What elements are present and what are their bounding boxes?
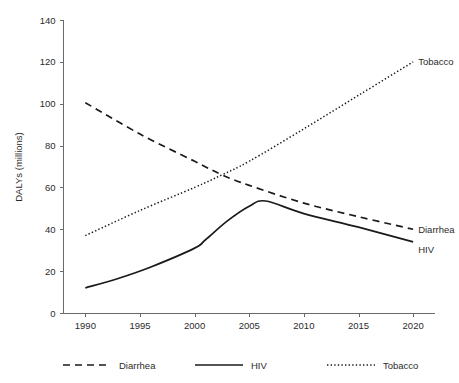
- series-line-hiv: [85, 201, 413, 288]
- series-line-tobacco: [85, 62, 413, 236]
- line-chart: 020406080100120140 199019952000200520102…: [0, 0, 459, 383]
- x-tick-label: 2000: [184, 320, 205, 331]
- x-tick-label: 2010: [293, 320, 314, 331]
- y-tick-label: 40: [45, 224, 56, 235]
- series-end-label-diarrhea: Diarrhea: [418, 224, 455, 235]
- series-end-label-hiv: HIV: [418, 244, 435, 255]
- chart-container: 020406080100120140 199019952000200520102…: [0, 0, 459, 383]
- y-tick-label: 20: [45, 266, 56, 277]
- series-end-label-tobacco: Tobacco: [418, 56, 453, 67]
- y-tick-label: 60: [45, 182, 56, 193]
- x-tick-label: 1990: [75, 320, 96, 331]
- chart-legend: DiarrheaHIVTobacco: [63, 360, 418, 371]
- legend-label-diarrhea: Diarrhea: [119, 360, 156, 371]
- y-tick-label: 0: [50, 308, 55, 319]
- x-tick-label: 2015: [348, 320, 369, 331]
- y-tick-label: 100: [40, 98, 56, 109]
- y-axis-ticks: 020406080100120140: [40, 15, 64, 319]
- legend-label-hiv: HIV: [251, 360, 268, 371]
- series-end-labels: DiarrheaHIVTobacco: [418, 56, 455, 254]
- y-axis-title: DALYs (millions): [13, 132, 24, 202]
- y-tick-label: 80: [45, 140, 56, 151]
- chart-series: [85, 62, 413, 288]
- y-tick-label: 140: [40, 15, 56, 26]
- x-axis-ticks: 1990199520002005201020152020: [75, 313, 424, 331]
- x-tick-label: 2005: [239, 320, 260, 331]
- series-line-diarrhea: [85, 103, 413, 230]
- chart-axes: [64, 20, 436, 314]
- legend-label-tobacco: Tobacco: [383, 360, 418, 371]
- x-tick-label: 2020: [403, 320, 424, 331]
- x-tick-label: 1995: [129, 320, 150, 331]
- y-tick-label: 120: [40, 56, 56, 67]
